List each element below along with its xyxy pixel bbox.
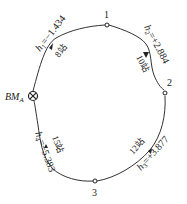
segment-1-labels: h1=−1.434 8站 — [33, 13, 69, 59]
point-1: 1 — [104, 9, 109, 27]
point-marker-icon — [105, 23, 109, 27]
point-marker-icon — [163, 91, 167, 95]
stations-s2: 10站 — [134, 53, 152, 74]
segment-4-labels: 15站 h4=−5.383 — [31, 130, 66, 174]
point-3: 3 — [92, 179, 97, 198]
benchmark-label: BMA — [5, 91, 24, 104]
stations-s3: 12站 — [126, 136, 146, 157]
segment-2-labels: h2=+2.884 10站 — [134, 23, 172, 74]
segment-2-3 — [97, 96, 165, 181]
stations-s1: 8站 — [52, 42, 69, 59]
leveling-route-diagram: BMA 1 2 3 h1=−1.434 8站 h2=+2.884 10站 12站… — [0, 0, 187, 204]
point-2: 2 — [163, 77, 172, 95]
point-3-label: 3 — [92, 187, 97, 198]
stations-s4: 15站 — [50, 134, 66, 155]
point-2-label: 2 — [167, 77, 172, 88]
segment-3-labels: 12站 h3=+3.877 — [126, 134, 172, 174]
benchmark-bm-a: BMA — [5, 91, 38, 104]
point-marker-icon — [93, 179, 97, 183]
point-1-label: 1 — [104, 9, 109, 20]
